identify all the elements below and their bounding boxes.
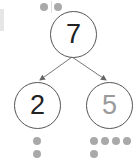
whole-value: 7 [66,21,81,48]
part-right-dot [112,137,120,145]
part-right-dot [90,137,98,145]
part-right-dot [123,137,131,145]
part-right-value: 5 [102,92,117,119]
part-left-value: 2 [30,92,45,119]
part-right-dot [101,137,109,145]
arrow-right [72,57,106,80]
part-circle-right: 5 [86,82,133,129]
whole-circle: 7 [50,11,97,58]
part-left-dot [33,150,41,158]
part-circle-left: 2 [14,82,61,129]
part-left-dot [33,137,41,145]
arrow-left [40,57,72,80]
part-right-dot [90,150,98,158]
